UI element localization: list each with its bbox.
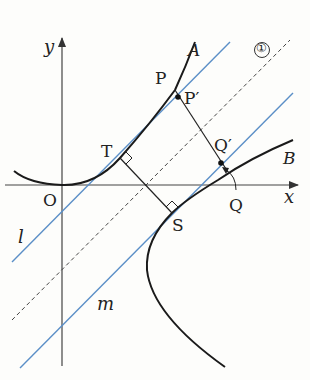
point-p-prime bbox=[175, 94, 181, 100]
segment-pq bbox=[175, 90, 228, 172]
point-p-label: P bbox=[155, 70, 166, 87]
dashed-midline-1 bbox=[12, 40, 290, 320]
point-p-prime-label: P′ bbox=[184, 90, 199, 107]
point-s-label: S bbox=[172, 217, 184, 234]
curve-a-label: A bbox=[188, 42, 200, 59]
line-m-label: m bbox=[97, 295, 114, 313]
curve-b bbox=[147, 140, 293, 367]
point-q-label: Q bbox=[229, 197, 243, 214]
point-q-prime bbox=[218, 160, 224, 166]
line-l-label: l bbox=[18, 228, 24, 246]
point-t-label: T bbox=[101, 143, 112, 160]
tangent-line-m bbox=[20, 93, 293, 368]
point-q-prime-label: Q′ bbox=[214, 137, 232, 154]
circled-number-label: ① bbox=[256, 42, 267, 54]
right-angle-mark-s bbox=[166, 201, 178, 207]
x-axis-label: x bbox=[284, 188, 294, 206]
tangent-line-l bbox=[12, 42, 230, 262]
origin-label: O bbox=[43, 192, 57, 209]
y-axis-label: y bbox=[44, 38, 54, 56]
right-angle-mark-t bbox=[126, 152, 132, 164]
curve-b-label: B bbox=[283, 150, 296, 167]
